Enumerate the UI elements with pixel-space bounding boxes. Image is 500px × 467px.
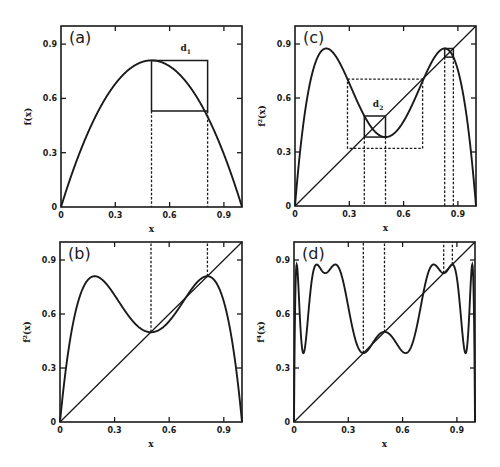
panel-b: 000.30.30.60.60.90.9xf²(x)(b): [22, 242, 242, 449]
y-tick-label: 0: [285, 202, 291, 211]
cobweb-path: [152, 60, 208, 111]
y-axis-label: f²(x): [257, 105, 267, 127]
x-axis-label: x: [149, 224, 155, 234]
y-tick-label: 0.9: [42, 256, 57, 265]
y-tick-label: 0.6: [43, 94, 58, 103]
y-axis-label: f⁴(x): [256, 321, 266, 343]
x-tick-label: 0.9: [451, 210, 466, 219]
x-tick-label: 0: [291, 426, 297, 435]
panel-label: (c): [303, 28, 324, 47]
y-tick-label: 0.3: [42, 364, 56, 373]
y-tick-label: 0.3: [43, 149, 57, 158]
y-tick-label: 0.9: [43, 40, 58, 49]
interval-annotation: d1: [180, 43, 190, 55]
figure: 000.30.30.60.60.90.9xf(x)(a)d1000.30.30.…: [0, 0, 500, 467]
x-tick-label: 0.3: [108, 426, 122, 435]
x-tick-label: 0.3: [108, 211, 122, 220]
x-tick-label: 0.9: [450, 426, 465, 435]
x-axis-label: x: [382, 439, 388, 449]
y-axis-label: f²(x): [22, 321, 32, 343]
x-tick-label: 0.6: [397, 210, 412, 219]
x-axis-label: x: [383, 223, 389, 233]
x-tick-label: 0: [57, 426, 63, 435]
x-tick-label: 0.6: [163, 211, 178, 220]
panel-label: (a): [69, 28, 91, 47]
x-tick-label: 0: [292, 210, 298, 219]
y-tick-label: 0.9: [277, 40, 292, 49]
x-tick-label: 0.3: [341, 426, 355, 435]
x-axis-label: x: [148, 439, 154, 449]
y-tick-label: 0.9: [276, 256, 291, 265]
x-tick-label: 0: [58, 211, 64, 220]
panel-label: (b): [68, 244, 91, 263]
panel-c: 000.30.30.60.60.90.9xf²(x)(c)d2: [257, 26, 476, 233]
y-tick-label: 0: [51, 203, 57, 212]
panel-d: 000.30.30.60.60.90.9xf⁴(x)(d): [256, 242, 475, 449]
interval-annotation: d2: [373, 99, 383, 111]
y-tick-label: 0.3: [276, 364, 290, 373]
x-tick-label: 0.9: [217, 426, 232, 435]
axis-ticks: 000.30.30.60.60.90.9: [43, 26, 242, 220]
y-axis-label: f(x): [23, 108, 33, 126]
y-tick-label: 0.6: [276, 310, 291, 319]
panel-label: (d): [302, 244, 325, 263]
y-tick-label: 0: [284, 418, 290, 427]
x-tick-label: 0.6: [396, 426, 411, 435]
y-tick-label: 0.6: [277, 94, 292, 103]
x-tick-label: 0.9: [217, 211, 232, 220]
y-tick-label: 0.3: [277, 148, 291, 157]
function-curve: [60, 276, 242, 422]
y-tick-label: 0: [50, 418, 56, 427]
y-tick-label: 0.6: [42, 310, 57, 319]
x-tick-label: 0.6: [162, 426, 177, 435]
x-tick-label: 0.3: [342, 210, 356, 219]
panel-a: 000.30.30.60.60.90.9xf(x)(a)d1: [23, 26, 242, 234]
